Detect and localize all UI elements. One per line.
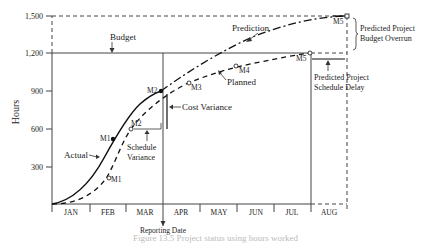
budget-overrun-label-2: Budget Overrun [360, 34, 412, 43]
ytick-1200: 1,200 [25, 49, 43, 58]
prediction-m5-label: M5 [333, 17, 344, 26]
month-jun: JUN [249, 208, 263, 217]
actual-arrow [89, 155, 97, 157]
schedule-variance-arrowhead [145, 130, 150, 134]
month-jul: JUL [286, 208, 299, 217]
schedule-variance-label-2: Variance [127, 153, 155, 162]
prediction-label: Prediction [232, 23, 269, 33]
figure-caption: Figure 13.5 Project status using hours w… [0, 233, 431, 243]
ytick-300: 300 [31, 163, 43, 172]
actual-m2-label: M2 [147, 86, 158, 95]
actual-arrowhead [96, 155, 100, 160]
y-ticks [46, 16, 52, 167]
month-apr: APR [174, 208, 189, 217]
planned-arrow [220, 73, 226, 80]
planned-curve [52, 53, 310, 204]
schedule-variance-label-1: Schedule [127, 143, 157, 152]
ytick-900: 900 [31, 87, 43, 96]
month-jan: JAN [64, 208, 78, 217]
planned-m3-label: M3 [191, 83, 202, 92]
schedule-delay-arrowhead [326, 60, 331, 65]
ytick-1500: 1,500 [25, 12, 43, 21]
y-axis-label: Hours [10, 100, 21, 125]
ytick-600: 600 [31, 125, 43, 134]
month-feb: FEB [101, 208, 115, 217]
actual-m1-marker [111, 137, 115, 141]
earned-value-chart: 1,500 1,200 900 600 300 Hours JAN FEB MA… [0, 0, 431, 246]
budget-overrun-label-1: Predicted Project [360, 24, 416, 33]
actual-m1-label: M1 [100, 134, 111, 143]
planned-m4-marker [234, 64, 238, 68]
month-mar: MAR [136, 208, 153, 217]
planned-m2-label: M2 [131, 119, 142, 128]
actual-label: Actual [64, 150, 88, 160]
planned-m5-label: M5 [296, 54, 307, 63]
planned-label: Planned [227, 77, 256, 87]
schedule-delay-label-1: Predicted Project [314, 73, 370, 82]
cost-variance-label: Cost Variance [182, 102, 232, 112]
planned-m5-marker [308, 51, 312, 55]
planned-m4-label: M4 [239, 66, 250, 75]
cost-variance-arrowhead [169, 105, 173, 110]
prediction-m5-marker [345, 14, 349, 18]
budget-label: Budget [110, 32, 136, 42]
budget-overrun-bracket [353, 18, 358, 50]
actual-m2-marker [159, 89, 163, 93]
budget-arrowhead [110, 48, 115, 53]
month-aug: AUG [321, 208, 338, 217]
schedule-delay-label-2: Schedule Delay [314, 83, 364, 92]
planned-m1-label: M1 [111, 175, 122, 184]
month-may: MAY [211, 208, 228, 217]
